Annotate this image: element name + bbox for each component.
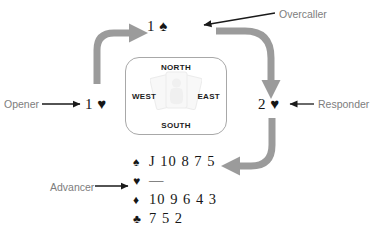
hand-ranks-hearts: — — [149, 172, 164, 189]
compass-east: EAST — [197, 92, 220, 101]
label-overcaller: Overcaller — [279, 8, 327, 20]
spade-icon: ♠ — [133, 155, 149, 170]
label-responder: Responder — [318, 98, 369, 110]
pointer-overcaller — [204, 13, 275, 25]
bid-overcall: 1 ♠ — [147, 18, 168, 35]
hand-row-hearts: ♥ — — [133, 172, 217, 191]
bridge-bidding-diagram: 1 ♠ 1 ♥ 2 ♥ Overcaller Opener Responder … — [0, 0, 382, 233]
hand-row-spades: ♠ J 10 8 7 5 — [133, 153, 217, 172]
bid-responder: 2 ♥ — [258, 96, 280, 113]
bid-responder-text: 2 ♥ — [258, 96, 280, 112]
hand-ranks-clubs: 7 5 2 — [149, 210, 183, 227]
flow-arrow-responder-to-advancer — [221, 118, 272, 176]
heart-icon: ♥ — [133, 174, 149, 189]
compass-north: NORTH — [161, 63, 191, 72]
bid-opener-text: 1 ♥ — [85, 96, 107, 112]
playing-cards-watermark — [150, 66, 202, 126]
compass-table-box: NORTH WEST EAST SOUTH — [125, 57, 227, 135]
compass-west: WEST — [132, 92, 156, 101]
label-opener: Opener — [4, 98, 39, 110]
hand-row-diamonds: ♦ 10 9 6 4 3 — [133, 191, 217, 210]
label-advancer: Advancer — [50, 181, 94, 193]
hand-ranks-diamonds: 10 9 6 4 3 — [149, 191, 217, 208]
bid-opener: 1 ♥ — [85, 96, 107, 113]
bid-overcall-text: 1 ♠ — [147, 18, 168, 34]
advancer-hand: ♠ J 10 8 7 5 ♥ — ♦ 10 9 6 4 3 ♣ 7 5 2 — [133, 153, 217, 229]
compass-south: SOUTH — [161, 121, 191, 130]
club-icon: ♣ — [133, 212, 149, 227]
hand-ranks-spades: J 10 8 7 5 — [149, 153, 215, 170]
hand-row-clubs: ♣ 7 5 2 — [133, 210, 217, 229]
diamond-icon: ♦ — [133, 193, 149, 208]
